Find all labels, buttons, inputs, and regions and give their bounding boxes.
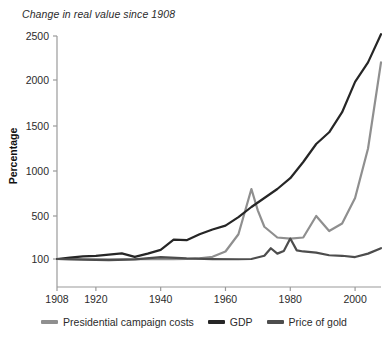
x-tick-label: 1920 (84, 293, 108, 305)
y-tick-label: 2500 (26, 30, 50, 42)
legend-label: GDP (230, 316, 253, 328)
x-tick-label: 1960 (214, 293, 238, 305)
legend-item[interactable]: Price of gold (267, 316, 347, 328)
y-tick-label: 100 (31, 253, 49, 265)
data-series-group (57, 34, 381, 260)
legend-item[interactable]: GDP (208, 316, 253, 328)
series-line (57, 239, 381, 261)
legend-swatch-icon (267, 320, 284, 324)
series-line (57, 34, 381, 259)
legend-item[interactable]: Presidential campaign costs (41, 316, 194, 328)
y-tick-label: 500 (31, 210, 49, 222)
series-line (57, 62, 381, 259)
legend-label: Price of gold (289, 316, 347, 328)
y-tick-label: 1500 (26, 120, 50, 132)
y-tick-label: 2000 (26, 74, 50, 86)
x-tick-label: 1908 (45, 293, 69, 305)
x-axis-ticks: 190819201940196019802000 (45, 287, 367, 305)
x-tick-label: 1940 (149, 293, 173, 305)
x-tick-label: 1980 (279, 293, 303, 305)
x-tick-label: 2000 (343, 293, 367, 305)
legend-swatch-icon (41, 320, 58, 324)
y-axis-ticks: 1005001000150020002500 (26, 30, 57, 265)
chart-figure: Change in real value since 1908 Percenta… (0, 0, 388, 337)
legend-swatch-icon (208, 320, 225, 324)
chart-legend: Presidential campaign costsGDPPrice of g… (0, 316, 388, 328)
chart-plot-area: 1005001000150020002500 19081920194019601… (0, 0, 388, 337)
legend-label: Presidential campaign costs (63, 316, 194, 328)
y-tick-label: 1000 (26, 165, 50, 177)
